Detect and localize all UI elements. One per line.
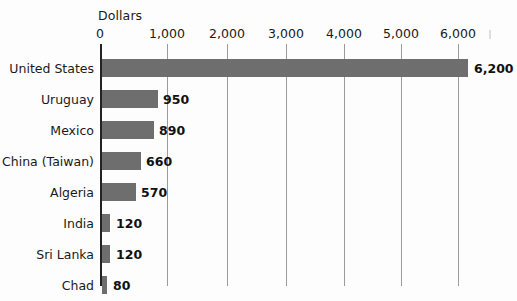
category-label-sri-lanka: Sri Lanka [36, 247, 94, 262]
category-label-chad: Chad [62, 278, 94, 293]
bar-value-algeria: 570 [141, 185, 167, 200]
bar-rows: United States 6,200 Uruguay 950 Mexico 8… [0, 0, 517, 301]
bar-india [102, 214, 110, 232]
bar-chart: Dollars 0 1,000 2,000 3,000 4,000 5,000 … [0, 0, 517, 301]
bar-mexico [102, 121, 154, 139]
bar-value-chad: 80 [113, 278, 130, 293]
bar-algeria [102, 183, 136, 201]
category-label-mexico: Mexico [50, 123, 94, 138]
bar-uruguay [102, 90, 158, 108]
category-label-uruguay: Uruguay [41, 92, 94, 107]
bar-value-sri-lanka: 120 [116, 247, 142, 262]
bar-value-india: 120 [116, 216, 142, 231]
category-label-china-taiwan: China (Taiwan) [2, 154, 94, 169]
category-label-india: India [63, 216, 94, 231]
table-row: United States 6,200 [0, 54, 517, 82]
bar-chad [102, 276, 107, 294]
table-row: China (Taiwan) 660 [0, 147, 517, 175]
table-row: Sri Lanka 120 [0, 240, 517, 268]
category-label-united-states: United States [9, 61, 94, 76]
bar-value-mexico: 890 [159, 123, 185, 138]
table-row: Uruguay 950 [0, 85, 517, 113]
bar-sri-lanka [102, 245, 110, 263]
table-row: India 120 [0, 209, 517, 237]
category-label-algeria: Algeria [50, 185, 94, 200]
bar-value-china-taiwan: 660 [146, 154, 172, 169]
table-row: Mexico 890 [0, 116, 517, 144]
bar-china-taiwan [102, 152, 141, 170]
bar-value-uruguay: 950 [163, 92, 189, 107]
table-row: Algeria 570 [0, 178, 517, 206]
bar-value-united-states: 6,200 [474, 61, 514, 76]
bar-united-states [102, 59, 468, 77]
table-row: Chad 80 [0, 271, 517, 299]
